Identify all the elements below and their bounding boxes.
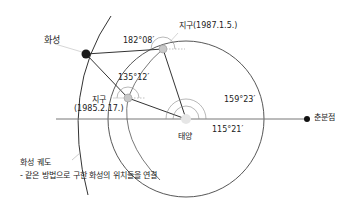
earth-1987-dot [159,45,167,53]
earth-1987-mars-line [86,49,163,54]
mars-label-leader [55,44,82,52]
mars-orbit-note: - 같은 방법으로 구한 화성의 위치들을 연결 [20,172,157,180]
vernal-equinox-dot [304,116,310,122]
angle-label-earth-1987: 182°08′ [123,37,154,45]
earth-1985-name-label: 지구 [92,96,106,104]
mars-orbit-label: 화성 궤도 [20,159,51,167]
mars-label: 화성 [44,36,60,45]
earth-1985-date-label: (1985.2.17.) [74,105,124,113]
sun-earth-1987-line [163,49,186,119]
mars-dot [82,50,91,59]
vernal-equinox-label: 춘분점 [314,114,335,122]
earth-orbit-segment [127,98,160,180]
mars-orbit-leader [72,153,80,160]
earth-1985-dot [124,94,132,102]
sun-dot [181,114,191,124]
earth-1987-label: 지구(1987.1.5.) [179,22,237,30]
angle-label-sun-earth-1987: 159°23′ [224,96,255,104]
angle-label-earth-1985: 135°12′ [118,74,149,82]
sun-label: 태양 [178,133,192,141]
angle-label-sun-earth-1985: 115°21′ [212,126,243,134]
